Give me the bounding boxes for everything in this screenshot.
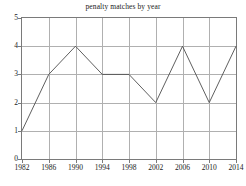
y-tick-label: 5 [2,14,18,22]
chart-title: penalty matches by year [0,2,246,11]
x-tick-mark [49,160,50,163]
x-tick-mark [22,160,23,163]
y-tick-label: 1 [2,127,18,135]
x-tick-label: 2014 [216,164,246,172]
x-tick-mark [183,160,184,163]
data-series-line [22,18,236,159]
x-tick-mark [209,160,210,163]
y-tick-label: 2 [2,99,18,107]
y-tick-label: 0 [2,155,18,163]
y-tick-label: 3 [2,71,18,79]
y-tick-label: 4 [2,42,18,50]
x-tick-mark [76,160,77,163]
x-tick-mark [236,160,237,163]
x-tick-mark [156,160,157,163]
plot-inner [22,18,236,159]
x-tick-mark [129,160,130,163]
plot-area [21,17,237,160]
x-tick-mark [102,160,103,163]
chart-figure: penalty matches by year 012345 198219861… [0,0,246,186]
data-polyline [22,46,236,131]
